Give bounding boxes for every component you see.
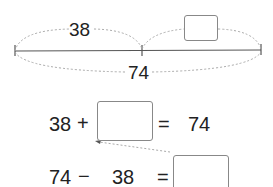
tape-diagram [0, 0, 273, 187]
sub-operand-b: 38 [112, 167, 134, 187]
plus-sign: + [77, 113, 89, 133]
label-74: 74 [128, 63, 149, 82]
addition-answer-box[interactable] [97, 101, 153, 141]
unknown-part-box[interactable] [184, 15, 218, 41]
add-equals-sign: = [158, 114, 170, 134]
add-operand: 38 [49, 114, 71, 134]
brace-arc-74-right [152, 52, 261, 72]
brace-arc-38-right [94, 29, 142, 49]
arrow-line [99, 142, 170, 152]
subtraction-answer-box[interactable] [173, 155, 229, 187]
minus-sign: − [78, 166, 90, 186]
brace-arc-74-left [15, 52, 125, 72]
sub-equals-sign: = [157, 167, 169, 187]
brace-arc-38-left [15, 29, 70, 51]
sub-operand-a: 74 [49, 167, 71, 187]
segment-line [15, 50, 261, 51]
add-result: 74 [188, 114, 210, 134]
brace-arc-unknown-left [142, 29, 184, 49]
label-38: 38 [69, 20, 90, 39]
brace-arc-unknown-right [218, 29, 261, 49]
